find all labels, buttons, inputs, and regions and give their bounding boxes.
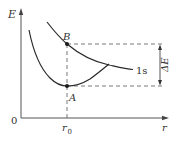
upper-curve-1s xyxy=(47,22,133,70)
delta-e-label: ΔE xyxy=(159,57,170,73)
point-A-marker xyxy=(65,84,69,88)
point-B-label: B xyxy=(62,31,70,42)
r0-subscript: 0 xyxy=(68,128,72,136)
r0-tick-label: r 0 xyxy=(62,122,72,136)
y-axis xyxy=(19,8,23,118)
point-B-marker xyxy=(65,42,69,46)
arrow-down-icon xyxy=(158,80,162,86)
x-axis xyxy=(21,116,169,120)
x-axis-label: r xyxy=(162,122,168,133)
origin-label: 0 xyxy=(11,115,17,126)
y-axis-arrow-icon xyxy=(19,8,23,15)
arrow-up-icon xyxy=(158,45,162,51)
energy-diagram: E 0 r r 0 B A 1s ΔE xyxy=(0,0,177,142)
x-axis-arrow-icon xyxy=(162,116,169,120)
point-A-label: A xyxy=(68,92,76,103)
curve-1s-label: 1s xyxy=(136,65,148,76)
y-axis-label: E xyxy=(7,8,16,21)
guide-lines xyxy=(67,44,163,118)
